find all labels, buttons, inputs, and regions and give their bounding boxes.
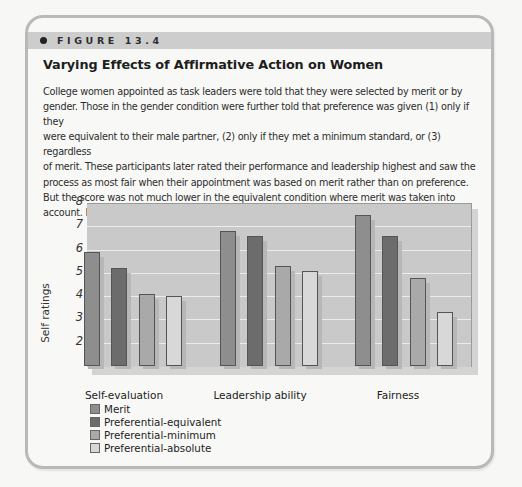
legend-label: Merit — [104, 403, 130, 415]
bar-preferential-equivalent — [247, 236, 263, 366]
gridline — [87, 226, 471, 227]
y-tick-label: 6 — [69, 241, 83, 255]
figure-frame: FIGURE 13.4 Varying Effects of Affirmati… — [25, 15, 494, 469]
x-category-label: Leadership ability — [190, 389, 330, 401]
figure-title: Varying Effects of Affirmative Action on… — [43, 57, 383, 72]
caption-line: were equivalent to their male partner, (… — [43, 129, 483, 159]
legend-label: Preferential-minimum — [104, 429, 216, 441]
bar-preferential-equivalent — [111, 268, 127, 366]
legend-swatch-icon — [90, 430, 100, 440]
x-category-label: Fairness — [328, 389, 468, 401]
legend-item: Preferential-equivalent — [90, 415, 221, 428]
bar-merit — [220, 231, 236, 366]
bar-preferential-absolute — [437, 312, 453, 366]
x-category-label: Self-evaluation — [54, 389, 194, 401]
figure-header-band: FIGURE 13.4 — [28, 32, 491, 49]
figure-label: FIGURE 13.4 — [57, 35, 163, 46]
bar-preferential-minimum — [410, 278, 426, 366]
legend-item: Preferential-minimum — [90, 428, 221, 441]
bar-preferential-absolute — [166, 296, 182, 366]
bar-merit — [355, 215, 371, 366]
y-tick-label: 2 — [69, 334, 83, 348]
y-axis-label: Self ratings — [39, 278, 51, 348]
bar-preferential-minimum — [139, 294, 155, 366]
legend-item: Preferential-absolute — [90, 441, 221, 454]
legend-item: Merit — [90, 402, 221, 415]
y-tick-label: 5 — [69, 264, 83, 278]
y-tick-label: 3 — [69, 310, 83, 324]
caption-line: gender. Those in the gender condition we… — [43, 99, 483, 129]
gridline — [87, 250, 471, 251]
legend-swatch-icon — [90, 417, 100, 427]
y-tick-label: 7 — [69, 217, 83, 231]
figure-caption: College women appointed as task leaders … — [43, 84, 483, 220]
bar-preferential-minimum — [275, 266, 291, 366]
bar-preferential-equivalent — [382, 236, 398, 366]
caption-line: process as most fair when their appointm… — [43, 175, 483, 190]
legend: MeritPreferential-equivalentPreferential… — [90, 402, 221, 454]
y-tick-label: 8 — [69, 194, 83, 208]
bullet-icon — [40, 37, 47, 44]
legend-label: Preferential-absolute — [104, 442, 211, 454]
legend-swatch-icon — [90, 404, 100, 414]
caption-line: College women appointed as task leaders … — [43, 84, 483, 99]
y-tick-label: 4 — [69, 287, 83, 301]
bar-preferential-absolute — [302, 271, 318, 366]
bar-merit — [84, 252, 100, 366]
caption-line: of merit. These participants later rated… — [43, 159, 483, 174]
legend-swatch-icon — [90, 443, 100, 453]
legend-label: Preferential-equivalent — [104, 416, 221, 428]
